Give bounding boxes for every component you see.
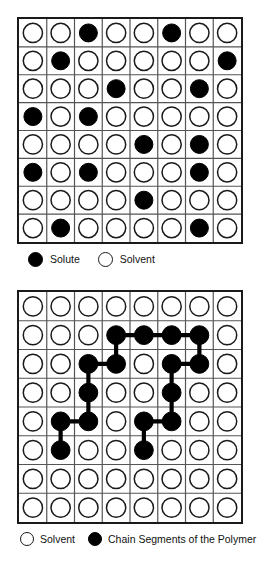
- lattice-cell-open: [23, 441, 42, 460]
- lattice-cell-open: [162, 135, 181, 154]
- lattice-cell-open: [107, 498, 126, 517]
- lattice-cell-open: [134, 79, 153, 98]
- lattice-cell-filled: [79, 383, 98, 402]
- lattice-cell-filled: [51, 441, 70, 460]
- lattice-cell-open: [134, 163, 153, 182]
- solution-lattice-panel: [17, 17, 243, 244]
- lattice-cell-open: [79, 326, 98, 345]
- lattice-cell-filled: [190, 80, 208, 98]
- lattice-cell-filled: [79, 412, 98, 431]
- lattice-cell-filled: [162, 412, 181, 431]
- lattice-cell-open: [23, 23, 42, 42]
- filled-circle-icon: [88, 532, 102, 546]
- lattice-cell-open: [162, 79, 181, 98]
- lattice-cell-open: [218, 469, 237, 488]
- lattice-cell-open: [23, 297, 42, 316]
- polymer-legend: Solvent Chain Segments of the Polymer: [20, 529, 260, 549]
- legend-label-chain-segments: Chain Segments of the Polymer: [108, 534, 256, 545]
- lattice-cell-open: [218, 79, 237, 98]
- lattice-cell-open: [51, 23, 70, 42]
- solution-lattice-svg: [19, 19, 241, 242]
- lattice-cell-open: [190, 469, 209, 488]
- lattice-cell-filled: [52, 219, 70, 237]
- lattice-cell-filled: [51, 412, 70, 431]
- legend-item-solvent: Solvent: [98, 252, 155, 267]
- lattice-cell-filled: [163, 24, 181, 42]
- lattice-cell-filled: [79, 354, 98, 373]
- lattice-cell-open: [162, 191, 181, 210]
- open-circle-icon: [20, 532, 34, 546]
- lattice-cell-open: [134, 107, 153, 126]
- lattice-cell-open: [23, 51, 42, 70]
- lattice-cell-filled: [135, 191, 153, 209]
- lattice-cell-open: [134, 297, 153, 316]
- legend-label-solute: Solute: [50, 254, 80, 265]
- lattice-cell-open: [79, 498, 98, 517]
- lattice-cell-open: [79, 469, 98, 488]
- lattice-cell-open: [190, 297, 209, 316]
- legend-item-solvent-2: Solvent: [20, 532, 75, 546]
- legend-item-solute: Solute: [28, 252, 80, 267]
- lattice-cell-open: [107, 218, 126, 237]
- lattice-cell-open: [23, 383, 42, 402]
- lattice-cell-filled: [24, 163, 42, 181]
- lattice-cell-open: [162, 218, 181, 237]
- lattice-cell-open: [134, 498, 153, 517]
- solution-lattice-frame: [17, 17, 243, 244]
- lattice-cell-open: [107, 191, 126, 210]
- lattice-cell-open: [23, 469, 42, 488]
- lattice-cell-filled: [162, 354, 181, 373]
- lattice-cell-filled: [190, 326, 209, 345]
- lattice-cell-open: [162, 51, 181, 70]
- lattice-cell-filled: [190, 163, 208, 181]
- lattice-cell-open: [218, 163, 237, 182]
- lattice-cell-filled: [218, 52, 236, 70]
- open-circle-icon: [98, 252, 113, 267]
- lattice-cell-open: [218, 412, 237, 431]
- lattice-cell-filled: [134, 326, 153, 345]
- lattice-cell-open: [134, 23, 153, 42]
- lattice-cell-filled: [107, 326, 126, 345]
- lattice-cell-filled: [107, 80, 125, 98]
- legend-label-solvent: Solvent: [120, 254, 155, 265]
- lattice-cell-filled: [135, 135, 153, 153]
- lattice-cell-filled: [52, 52, 70, 70]
- legend-item-chain-segments: Chain Segments of the Polymer: [88, 532, 256, 546]
- solution-legend: Solute Solvent: [28, 249, 238, 269]
- lattice-cell-open: [107, 441, 126, 460]
- lattice-cell-open: [218, 135, 237, 154]
- lattice-cell-open: [107, 297, 126, 316]
- polymer-lattice-panel: [17, 290, 243, 524]
- lattice-cell-open: [218, 326, 237, 345]
- filled-circle-icon: [28, 252, 43, 267]
- lattice-cell-open: [23, 498, 42, 517]
- lattice-cell-open: [79, 297, 98, 316]
- lattice-cell-open: [134, 51, 153, 70]
- lattice-cell-open: [51, 135, 70, 154]
- lattice-cell-open: [190, 412, 209, 431]
- lattice-cell-filled: [190, 135, 208, 153]
- lattice-cell-filled: [79, 163, 97, 181]
- lattice-cell-open: [218, 383, 237, 402]
- lattice-cell-open: [79, 441, 98, 460]
- polymer-lattice-frame: [17, 290, 243, 524]
- lattice-cell-open: [218, 191, 237, 210]
- lattice-cell-open: [107, 469, 126, 488]
- lattice-cell-open: [23, 218, 42, 237]
- lattice-cell-open: [190, 51, 209, 70]
- lattice-cell-open: [51, 383, 70, 402]
- lattice-cell-open: [51, 498, 70, 517]
- lattice-cell-filled: [190, 219, 208, 237]
- lattice-cell-filled: [79, 108, 97, 126]
- lattice-cell-open: [23, 354, 42, 373]
- lattice-cell-filled: [162, 383, 181, 402]
- lattice-cell-open: [134, 354, 153, 373]
- lattice-cell-open: [51, 326, 70, 345]
- lattice-cell-open: [79, 191, 98, 210]
- lattice-figure: Solute Solvent Solvent Chain Segments of…: [0, 0, 263, 564]
- lattice-cell-open: [79, 51, 98, 70]
- lattice-cell-open: [190, 107, 209, 126]
- lattice-cell-open: [218, 498, 237, 517]
- lattice-cell-open: [218, 218, 237, 237]
- lattice-cell-open: [51, 297, 70, 316]
